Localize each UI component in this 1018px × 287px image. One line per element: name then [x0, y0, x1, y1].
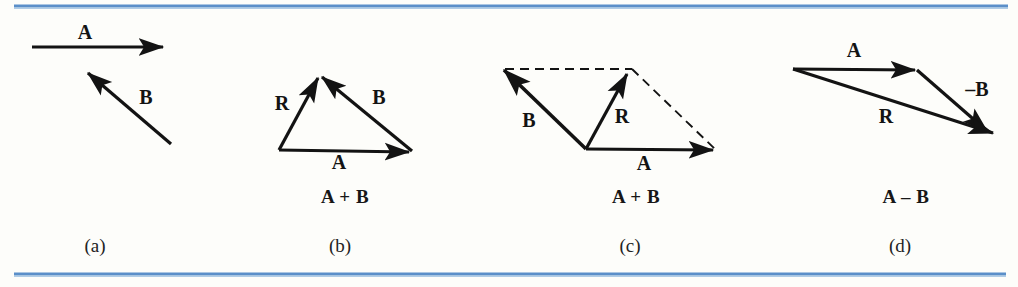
- vector-minus-b-label: –B: [964, 78, 988, 100]
- vector-a-arrow: [586, 149, 713, 150]
- vector-a-label: A: [637, 152, 652, 174]
- vector-r-arrow: [279, 78, 318, 150]
- vector-r-label: R: [275, 92, 290, 114]
- panel-d-expression: A – B: [883, 186, 930, 207]
- vector-a-arrow: [793, 69, 915, 70]
- panel-d-caption: (d): [889, 235, 911, 257]
- vector-b-label: B: [372, 86, 385, 108]
- vector-a-label: A: [78, 21, 93, 43]
- panel-a: AB(a): [32, 21, 171, 258]
- vector-b-label: B: [139, 86, 152, 108]
- dashed-right-edge: [632, 69, 716, 150]
- vector-b-arrow: [322, 77, 412, 151]
- panel-c-caption: (c): [619, 235, 640, 257]
- panel-b-expression: A + B: [321, 186, 369, 207]
- panel-a-caption: (a): [84, 235, 105, 257]
- vector-r-label: R: [615, 105, 630, 127]
- vector-b-arrow: [88, 73, 171, 144]
- panel-c-expression: A + B: [612, 186, 660, 207]
- panel-d: A–BRA – B(d): [793, 39, 993, 258]
- vector-a-label: A: [332, 151, 347, 173]
- vector-b-label: B: [522, 109, 535, 131]
- panels-layer: AB(a)ABRA + B(b)ABRA + B(c)A–BRA – B(d): [32, 21, 993, 258]
- figure-canvas: AB(a)ABRA + B(b)ABRA + B(c)A–BRA – B(d): [0, 0, 1018, 287]
- vector-a-label: A: [847, 39, 862, 61]
- panel-b-caption: (b): [329, 235, 351, 257]
- vector-figure: AB(a)ABRA + B(b)ABRA + B(c)A–BRA – B(d): [0, 0, 1018, 287]
- vector-b-arrow: [504, 70, 586, 149]
- vector-r-label: R: [879, 105, 894, 127]
- panel-c: ABRA + B(c): [504, 69, 716, 257]
- panel-b: ABRA + B(b): [275, 77, 412, 257]
